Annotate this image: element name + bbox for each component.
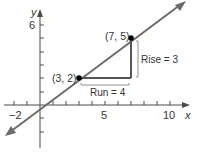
run-label: Run = 4 (90, 87, 126, 98)
rise-bracket: Rise = 3 (136, 41, 178, 77)
y-tick-label-6: 6 (29, 19, 35, 31)
run-bracket: Run = 4 (81, 83, 129, 98)
rise-label: Rise = 3 (141, 54, 178, 65)
x-tick-label-neg2: −2 (9, 109, 22, 121)
point-label-7-5: (7, 5) (105, 30, 130, 42)
point-label-3-2: (3, 2) (52, 72, 77, 84)
y-axis-arrow-icon (37, 9, 43, 17)
x-axis: −2 5 10 x (4, 101, 191, 121)
x-tick-label-5: 5 (101, 109, 107, 121)
y-ticks (40, 25, 44, 132)
line-arrow-start-icon (5, 126, 16, 136)
slope-diagram: −2 5 10 x 6 y Run = 4 (0, 0, 197, 152)
y-axis: 6 y (29, 6, 44, 148)
x-ticks (14, 101, 170, 105)
point-7-5: (7, 5) (105, 30, 134, 42)
y-axis-label: y (30, 6, 38, 18)
line-arrow-end-icon (175, 1, 186, 11)
rise-run-triangle (79, 38, 131, 78)
x-tick-label-10: 10 (163, 109, 175, 121)
x-axis-label: x (184, 109, 191, 121)
x-axis-arrow-icon (182, 102, 190, 108)
